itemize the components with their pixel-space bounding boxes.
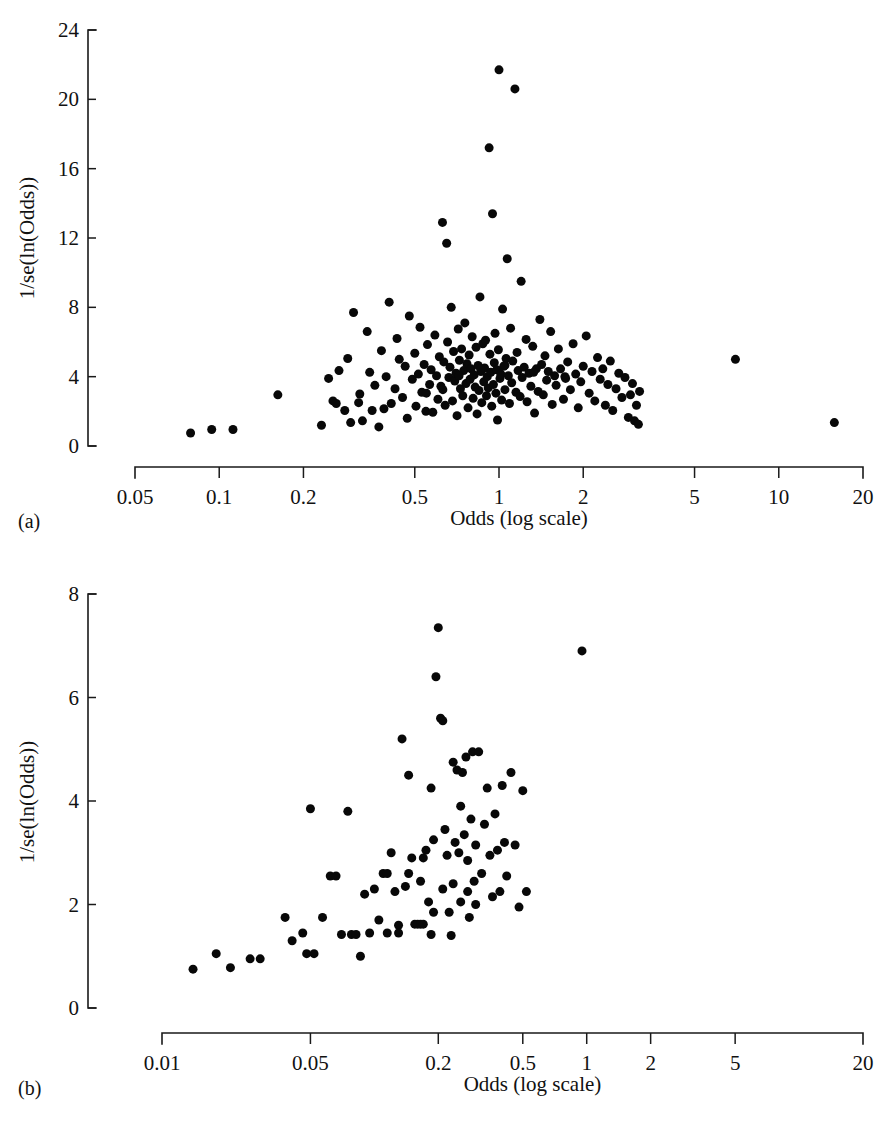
data-point: [474, 747, 483, 756]
data-point: [482, 391, 491, 400]
data-point: [471, 900, 480, 909]
data-point: [332, 872, 341, 881]
data-point: [335, 366, 344, 375]
data-point: [445, 908, 454, 917]
data-point: [416, 323, 425, 332]
data-point: [463, 887, 472, 896]
data-point: [306, 804, 315, 813]
data-point: [608, 406, 617, 415]
data-point: [443, 851, 452, 860]
data-point: [424, 897, 433, 906]
data-point: [337, 930, 346, 939]
data-point: [539, 390, 548, 399]
data-point: [419, 853, 428, 862]
data-point: [475, 292, 484, 301]
data-point: [393, 334, 402, 343]
data-points-group-b: [189, 623, 587, 974]
data-point: [423, 340, 432, 349]
data-point: [343, 354, 352, 363]
data-point: [542, 376, 551, 385]
y-axis-title: 1/se(ln(Odds)): [15, 741, 39, 863]
y-axis-title: 1/se(ln(Odds)): [15, 177, 39, 299]
data-point: [632, 401, 641, 410]
data-point: [634, 420, 643, 429]
data-point: [207, 425, 216, 434]
data-point: [458, 391, 467, 400]
data-point: [358, 416, 367, 425]
data-point: [566, 385, 575, 394]
data-point: [352, 930, 361, 939]
data-point: [464, 403, 473, 412]
data-point: [507, 378, 516, 387]
data-point: [601, 401, 610, 410]
data-point: [505, 399, 514, 408]
data-point: [550, 371, 559, 380]
data-point: [603, 380, 612, 389]
data-point: [548, 400, 557, 409]
data-point: [493, 416, 502, 425]
data-point: [515, 903, 524, 912]
data-point: [438, 716, 447, 725]
data-point: [363, 327, 372, 336]
data-point: [403, 414, 412, 423]
data-point: [588, 367, 597, 376]
data-point: [383, 869, 392, 878]
data-point: [563, 357, 572, 366]
data-point: [416, 877, 425, 886]
data-point: [370, 381, 379, 390]
data-point: [438, 884, 447, 893]
data-point: [522, 335, 531, 344]
data-point: [495, 887, 504, 896]
data-point: [401, 362, 410, 371]
data-point: [494, 345, 503, 354]
data-point: [559, 395, 568, 404]
data-point: [574, 403, 583, 412]
x-axis-line: [162, 1033, 863, 1044]
data-point: [451, 838, 460, 847]
data-point: [448, 396, 457, 405]
panel-label-b: (b): [18, 1077, 41, 1100]
scatter-plot-a: 048121620241/se(ln(Odds))0.050.10.20.512…: [0, 0, 896, 545]
data-point: [552, 381, 561, 390]
data-point: [431, 672, 440, 681]
data-point: [443, 338, 452, 347]
data-point: [556, 364, 565, 373]
data-point: [508, 357, 517, 366]
data-point: [212, 949, 221, 958]
data-point: [529, 368, 538, 377]
data-point: [510, 84, 519, 93]
data-point: [317, 421, 326, 430]
data-point: [394, 921, 403, 930]
data-point: [407, 853, 416, 862]
data-point: [506, 324, 515, 333]
data-point: [454, 848, 463, 857]
x-tick-label-0.5: 0.5: [402, 485, 428, 509]
data-point: [485, 143, 494, 152]
y-tick-label-0: 0: [69, 996, 80, 1020]
data-point: [332, 399, 341, 408]
data-points-group-a: [186, 65, 839, 437]
data-point: [606, 357, 615, 366]
data-point: [365, 368, 374, 377]
data-point: [480, 820, 489, 829]
data-point: [455, 371, 464, 380]
data-point: [422, 389, 431, 398]
data-point: [466, 815, 475, 824]
data-point: [495, 65, 504, 74]
data-point: [256, 954, 265, 963]
data-point: [474, 386, 483, 395]
data-point: [434, 623, 443, 632]
y-tick-label-8: 8: [69, 582, 80, 606]
data-point: [579, 362, 588, 371]
data-point: [449, 758, 458, 767]
data-point: [310, 949, 319, 958]
data-point: [411, 402, 420, 411]
data-point: [453, 411, 462, 420]
data-point: [471, 840, 480, 849]
data-point: [356, 952, 365, 961]
x-tick-label-0.05: 0.05: [292, 1051, 329, 1075]
x-tick-label-10: 10: [768, 485, 789, 509]
data-point: [469, 394, 478, 403]
y-tick-label-8: 8: [69, 295, 80, 319]
data-point: [487, 402, 496, 411]
